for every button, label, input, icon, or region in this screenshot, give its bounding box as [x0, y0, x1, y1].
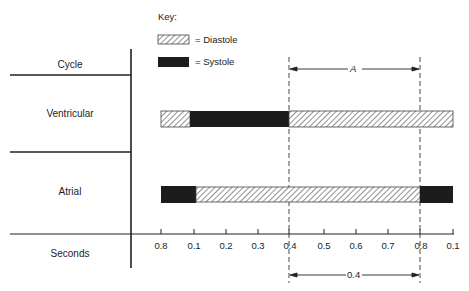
tick-label: 0.2 [219, 240, 232, 251]
row-label-seconds: Seconds [10, 248, 130, 259]
key-systole-swatch [158, 57, 189, 67]
atrial-diastole [196, 187, 420, 202]
tick-label: 0.3 [251, 240, 264, 251]
ventricular-diastole-2 [289, 111, 453, 127]
interval-a-label: A [350, 63, 356, 74]
row-label-ventricular: Ventricular [10, 108, 130, 119]
tick-label: 0.6 [349, 240, 362, 251]
key-diastole-swatch [158, 35, 189, 44]
interval-0.4-label: 0.4 [347, 269, 360, 280]
atrial-systole-1 [161, 186, 196, 203]
atrial-bar [161, 186, 453, 203]
ventricular-systole [190, 111, 289, 127]
axis-ticks [161, 229, 453, 234]
tick-label: 0.7 [381, 240, 394, 251]
key-diastole-label: = Diastole [195, 34, 238, 45]
tick-label: 0.8 [154, 240, 167, 251]
atrial-systole-2 [420, 186, 453, 203]
tick-label: 0.1 [446, 240, 459, 251]
tick-label: 0.8 [414, 240, 427, 251]
key-title: Key: [158, 11, 177, 22]
row-label-atrial: Atrial [10, 186, 130, 197]
ventricular-bar [161, 111, 453, 127]
tick-label: 0.1 [187, 240, 200, 251]
row-label-cycle: Cycle [10, 59, 130, 70]
tick-label: 0.4 [283, 240, 296, 251]
tick-label: 0.5 [317, 240, 330, 251]
key-systole-label: = Systole [195, 56, 234, 67]
ventricular-diastole-1 [161, 111, 190, 127]
